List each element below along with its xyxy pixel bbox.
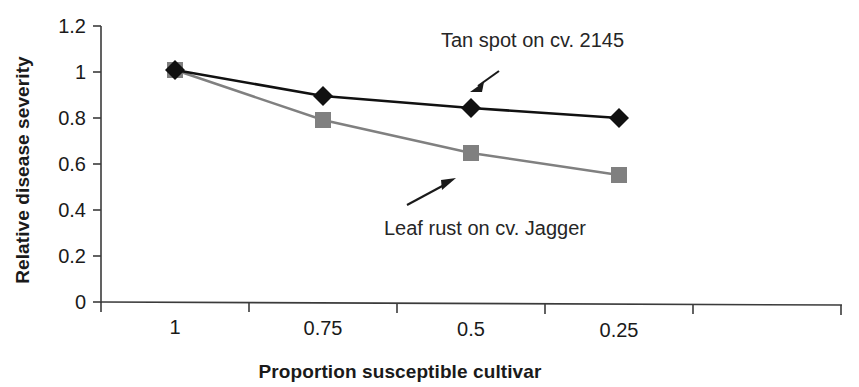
- y-tick-label-1: 1: [75, 61, 86, 83]
- line-chart-canvas: 1.2 1 0.8 0.6 0.4 0.2 0 1 0.75 0.5 0.25: [0, 0, 859, 387]
- chart-figure: 1.2 1 0.8 0.6 0.4 0.2 0 1 0.75 0.5 0.25: [0, 0, 859, 387]
- y-tick-label-0.4: 0.4: [58, 199, 86, 221]
- data-point-leaf-rust-3: [611, 167, 627, 183]
- y-tick-label-0.6: 0.6: [58, 153, 86, 175]
- y-axis-title: Relative disease severity: [12, 56, 33, 284]
- annotation-leaf-rust-label: Leaf rust on cv. Jagger: [384, 217, 586, 239]
- y-tick-label-0.8: 0.8: [58, 107, 86, 129]
- y-tick-label-1.2: 1.2: [58, 15, 86, 37]
- annotation-tan-spot-label: Tan spot on cv. 2145: [441, 29, 624, 51]
- x-tick-label-0.25: 0.25: [600, 319, 639, 341]
- data-point-leaf-rust-1: [315, 112, 331, 128]
- x-tick-label-0.5: 0.5: [457, 318, 485, 340]
- y-tick-label-0.2: 0.2: [58, 245, 86, 267]
- y-tick-label-0: 0: [75, 291, 86, 313]
- x-tick-label-1: 1: [169, 316, 180, 338]
- data-point-leaf-rust-2: [463, 145, 479, 161]
- x-axis-title: Proportion susceptible cultivar: [259, 361, 542, 382]
- x-tick-label-0.75: 0.75: [304, 317, 343, 339]
